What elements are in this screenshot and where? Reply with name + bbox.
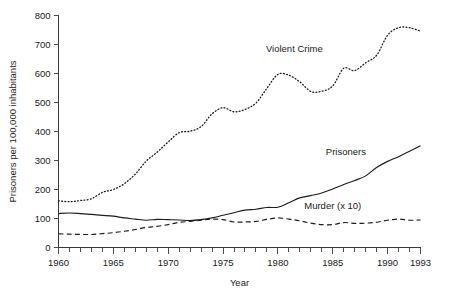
data-series xyxy=(59,27,421,235)
x-axis-title: Year xyxy=(230,277,249,288)
y-tick-label: 700 xyxy=(35,39,51,50)
axes xyxy=(59,16,421,248)
x-tick-label: 1990 xyxy=(377,257,398,268)
y-tick-label: 300 xyxy=(35,155,51,166)
x-tick-label: 1993 xyxy=(410,257,431,268)
x-tick-label: 1985 xyxy=(322,257,343,268)
series-label-prisoners: Prisoners xyxy=(326,146,366,157)
y-tick-label: 100 xyxy=(35,213,51,224)
series-line-murder-x-10 xyxy=(59,218,421,235)
y-tick-label: 500 xyxy=(35,97,51,108)
series-label-violent-crime: Violent Crime xyxy=(266,43,323,54)
y-tick-label: 600 xyxy=(35,68,51,79)
series-line-prisoners xyxy=(59,146,421,221)
x-tick-label: 1975 xyxy=(212,257,233,268)
y-tick-label: 0 xyxy=(45,242,50,253)
y-tick-label: 200 xyxy=(35,184,51,195)
y-axis-title: Prisoners per 100,000 inhabitants xyxy=(7,60,18,202)
x-tick-label: 1965 xyxy=(103,257,124,268)
x-tick-label: 1960 xyxy=(48,257,69,268)
axis-titles: YearPrisoners per 100,000 inhabitants xyxy=(7,60,249,287)
x-tick-label: 1970 xyxy=(158,257,179,268)
y-tick-label: 400 xyxy=(35,126,51,137)
y-tick-label: 800 xyxy=(35,10,51,21)
tick-marks xyxy=(54,16,421,255)
series-annotations: Violent CrimePrisonersMurder (x 10) xyxy=(266,43,366,211)
x-tick-label: 1980 xyxy=(267,257,288,268)
line-chart: 0100200300400500600700800196019651970197… xyxy=(0,0,449,295)
chart-page: 0100200300400500600700800196019651970197… xyxy=(0,0,449,295)
tick-labels: 0100200300400500600700800196019651970197… xyxy=(35,10,431,268)
series-label-murder-x-10: Murder (x 10) xyxy=(304,200,361,211)
